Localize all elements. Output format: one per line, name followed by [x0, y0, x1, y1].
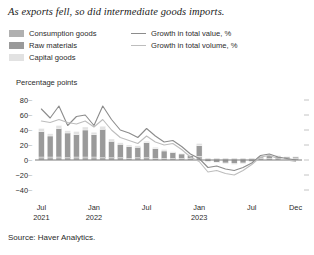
y-axis-title: Percentage points: [16, 78, 77, 87]
plot-area: [0, 88, 314, 200]
legend-item-capital-goods: Capital goods: [9, 52, 97, 63]
source-note: Source: Haver Analytics.: [8, 233, 95, 242]
legend-label-growth-total-volume: Growth in total volume, %: [151, 41, 238, 50]
plot-svg: [0, 88, 314, 200]
legend-line-growth-total-value: [131, 33, 146, 34]
y-axis-tick-label: 80: [6, 96, 28, 105]
x-axis-tick-label: Jul: [23, 203, 59, 212]
y-axis-tick-mark: –: [28, 140, 36, 149]
legend-swatch-raw-materials: [9, 42, 24, 49]
y-axis-tick-label: −40: [6, 186, 28, 195]
y-axis-tick-label: 40: [6, 126, 28, 135]
y-axis-tick-mark: –: [28, 155, 36, 164]
chart-title: As exports fell, so did intermediate goo…: [8, 6, 308, 17]
x-axis-tick-label: Jan: [181, 203, 217, 212]
legend-item-growth-total-value: Growth in total value, %: [131, 28, 238, 39]
y-axis-tick-mark: –: [28, 170, 36, 179]
y-axis-tick-label: 0: [6, 156, 28, 165]
legend-line-growth-total-volume: [131, 45, 146, 46]
x-axis-tick-label: Dec: [278, 203, 314, 212]
legend-label-consumption-goods: Consumption goods: [29, 29, 97, 38]
y-axis-tick-label: −20: [6, 171, 28, 180]
y-axis-tick-mark: –: [28, 125, 36, 134]
chart-legend: Consumption goods Raw materials Capital …: [9, 28, 309, 62]
legend-swatch-capital-goods: [9, 54, 24, 61]
x-axis-tick-year: 2022: [76, 213, 112, 222]
legend-column-bars: Consumption goods Raw materials Capital …: [9, 28, 97, 63]
legend-label-raw-materials: Raw materials: [29, 41, 77, 50]
y-axis-tick-mark: –: [28, 185, 36, 194]
legend-item-consumption-goods: Consumption goods: [9, 28, 97, 39]
y-axis-tick-mark: –: [28, 95, 36, 104]
x-axis-tick-year: 2023: [181, 213, 217, 222]
x-axis-tick-label: Jan: [76, 203, 112, 212]
y-axis-tick-label: 20: [6, 141, 28, 150]
y-axis-tick-label: 60: [6, 111, 28, 120]
legend-label-growth-total-value: Growth in total value, %: [151, 29, 231, 38]
y-axis-tick-mark: –: [28, 110, 36, 119]
legend-item-raw-materials: Raw materials: [9, 40, 97, 51]
legend-column-lines: Growth in total value, % Growth in total…: [131, 28, 238, 52]
x-axis-tick-label: Jul: [234, 203, 270, 212]
legend-swatch-consumption-goods: [9, 30, 24, 37]
chart-figure: As exports fell, so did intermediate goo…: [0, 0, 314, 255]
x-axis-tick-year: 2021: [23, 213, 59, 222]
x-axis-tick-label: Jul: [129, 203, 165, 212]
legend-label-capital-goods: Capital goods: [29, 53, 75, 62]
legend-item-growth-total-volume: Growth in total volume, %: [131, 40, 238, 51]
